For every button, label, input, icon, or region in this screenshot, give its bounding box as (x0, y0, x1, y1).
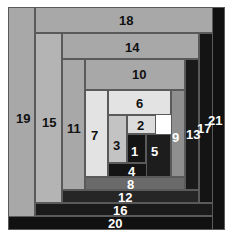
quilt-piece-1 (127, 134, 146, 163)
quilt-piece-12 (62, 190, 199, 203)
quilt-piece-10 (85, 59, 185, 90)
quilt-piece-15 (35, 33, 62, 203)
quilt-piece-19 (8, 7, 35, 230)
quilt-piece-16 (35, 203, 213, 216)
quilt-piece-6 (108, 90, 171, 115)
quilt-piece-7 (85, 90, 108, 177)
quilt-piece-11 (62, 59, 85, 190)
quilt-piece-20 (8, 216, 225, 230)
quilt-piece-8 (85, 177, 185, 190)
log-cabin-block: 123456789101112131415161718192021 (0, 0, 233, 244)
quilt-piece-3 (108, 115, 127, 163)
quilt-piece-21 (212, 7, 225, 230)
quilt-piece-17 (199, 33, 213, 203)
quilt-piece-18 (35, 7, 213, 33)
quilt-piece-13 (185, 59, 199, 190)
quilt-piece-14 (62, 33, 199, 59)
quilt-piece-2 (127, 115, 156, 134)
quilt-piece-9 (171, 90, 185, 177)
block-canvas: 123456789101112131415161718192021 (0, 0, 233, 244)
quilt-piece-5 (146, 134, 171, 177)
